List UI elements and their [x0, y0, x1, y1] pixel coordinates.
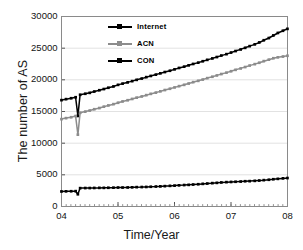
series-marker-acn — [70, 116, 73, 119]
series-marker-con — [103, 187, 106, 190]
series-marker-acn — [159, 90, 162, 93]
series-marker-acn — [192, 81, 195, 84]
series-marker-con — [286, 177, 289, 180]
series-marker-con — [272, 178, 275, 181]
series-marker-acn — [149, 93, 152, 96]
series-marker-acn — [140, 95, 143, 98]
series-marker-acn — [169, 87, 172, 90]
series-marker-acn — [77, 133, 80, 136]
series-marker-internet — [282, 29, 285, 32]
series-marker-con — [187, 184, 190, 187]
series-marker-con — [60, 190, 63, 193]
series-marker-internet — [159, 72, 162, 75]
series-marker-internet — [244, 47, 247, 50]
series-marker-internet — [121, 82, 124, 85]
series-marker-con — [107, 186, 110, 189]
x-tick-label: 07 — [216, 210, 246, 221]
series-marker-internet — [93, 90, 96, 93]
legend-item-acn[interactable]: ACN — [108, 37, 166, 51]
series-marker-internet — [197, 61, 200, 64]
series-marker-acn — [220, 73, 223, 76]
legend-item-internet[interactable]: Internet — [108, 20, 166, 34]
series-marker-acn — [183, 84, 186, 87]
series-marker-con — [169, 185, 172, 188]
series-marker-internet — [211, 57, 214, 60]
series-marker-internet — [74, 96, 77, 99]
series-marker-internet — [60, 99, 63, 102]
series-marker-acn — [145, 94, 148, 97]
series-marker-acn — [98, 107, 101, 110]
series-marker-internet — [84, 92, 87, 95]
series-marker-internet — [230, 51, 233, 54]
series-marker-con — [140, 186, 143, 189]
series-marker-acn — [244, 66, 247, 69]
series-marker-con — [145, 186, 148, 189]
series-marker-con — [88, 187, 91, 190]
y-tick-marks-group — [62, 17, 66, 207]
series-marker-con — [135, 186, 138, 189]
series-marker-con — [206, 182, 209, 185]
series-marker-acn — [135, 96, 138, 99]
series-marker-internet — [192, 63, 195, 66]
series-marker-con — [84, 187, 87, 190]
series-marker-acn — [155, 91, 158, 94]
series-marker-internet — [135, 79, 138, 82]
series-marker-internet — [149, 75, 152, 78]
series-marker-acn — [272, 57, 275, 60]
series-marker-con — [183, 184, 186, 187]
series-marker-internet — [88, 92, 91, 95]
legend-item-con[interactable]: CON — [108, 54, 166, 68]
series-marker-con — [93, 187, 96, 190]
y-axis-title: The number of AS — [16, 26, 30, 196]
series-marker-con — [244, 180, 247, 183]
series-marker-acn — [79, 111, 82, 114]
series-marker-acn — [60, 118, 63, 121]
series-marker-internet — [126, 81, 129, 84]
series-marker-internet — [164, 71, 167, 74]
series-marker-internet — [145, 76, 148, 79]
series-marker-con — [216, 182, 219, 185]
series-marker-internet — [239, 48, 242, 51]
series-marker-acn — [112, 103, 115, 106]
series-marker-con — [149, 185, 152, 188]
series-marker-internet — [253, 43, 256, 46]
series-marker-internet — [173, 68, 176, 71]
series-marker-acn — [197, 80, 200, 83]
chart-container: 050001000015000200002500030000 040506070… — [0, 0, 303, 250]
series-marker-acn — [187, 82, 190, 85]
series-marker-acn — [88, 109, 91, 112]
series-marker-internet — [103, 88, 106, 91]
series-marker-con — [77, 193, 80, 196]
series-marker-con — [164, 185, 167, 188]
series-marker-internet — [225, 53, 228, 56]
series-marker-acn — [178, 85, 181, 88]
series-marker-internet — [79, 93, 82, 96]
series-marker-con — [178, 184, 181, 187]
series-marker-internet — [140, 77, 143, 80]
series-marker-acn — [121, 100, 124, 103]
series-marker-acn — [164, 89, 167, 92]
series-marker-acn — [201, 78, 204, 81]
series-marker-internet — [187, 64, 190, 67]
series-marker-internet — [286, 28, 289, 31]
series-marker-internet — [117, 84, 120, 87]
series-marker-acn — [262, 60, 265, 63]
series-marker-internet — [169, 69, 172, 72]
x-tick-label: 04 — [47, 210, 77, 221]
gridlines-group — [62, 48, 288, 175]
series-marker-acn — [211, 75, 214, 78]
series-marker-con — [225, 181, 228, 184]
series-line-internet — [62, 29, 288, 116]
x-tick-label: 05 — [103, 210, 133, 221]
series-marker-acn — [206, 77, 209, 80]
series-marker-con — [79, 187, 82, 190]
legend-label: Internet — [137, 22, 166, 32]
series-marker-con — [248, 180, 251, 183]
series-marker-con — [220, 181, 223, 184]
series-marker-acn — [107, 104, 110, 107]
series-marker-acn — [173, 86, 176, 89]
series-marker-internet — [131, 80, 134, 83]
series-marker-con — [112, 186, 115, 189]
series-marker-acn — [126, 99, 129, 102]
series-marker-internet — [216, 56, 219, 59]
